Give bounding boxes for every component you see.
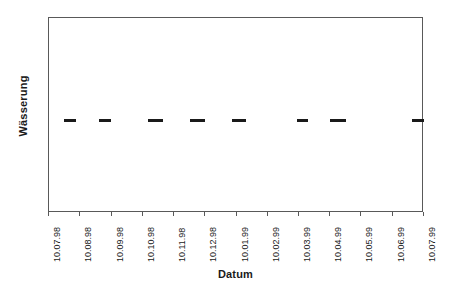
plot-area <box>48 17 423 212</box>
y-axis-title-text: Wässerung <box>17 75 29 136</box>
x-tick-label-text: 10.08.98 <box>83 227 93 262</box>
x-tick-label-text: 10.04.99 <box>333 227 343 262</box>
data-marker <box>297 119 309 122</box>
data-marker <box>232 119 246 122</box>
x-tick-label-text: 10.07.99 <box>427 227 437 262</box>
data-marker <box>412 119 424 122</box>
x-tick-label-text: 10.02.99 <box>271 227 281 262</box>
data-marker <box>148 119 163 122</box>
x-tick-label-text: 10.03.99 <box>302 227 312 262</box>
x-tick-label-text: 10.01.99 <box>240 227 250 262</box>
x-tick-label-text: 10.10.98 <box>146 227 156 262</box>
x-tick-label-text: 10.11.98 <box>177 228 187 262</box>
data-marker <box>99 119 111 122</box>
x-axis-title: Datum <box>48 268 423 280</box>
x-tick-label-text: 10.12.98 <box>208 227 218 262</box>
x-tick-label-text: 10.07.98 <box>52 227 62 262</box>
data-marker <box>190 119 205 122</box>
chart-figure: Wässerung 10.07.9810.08.9810.09.9810.10.… <box>0 0 449 294</box>
y-axis-title: Wässerung <box>9 0 37 212</box>
data-marker <box>330 119 347 122</box>
x-tick-label-text: 10.05.99 <box>364 227 374 262</box>
x-axis-tick-labels: 10.07.9810.08.9810.09.9810.10.9810.11.98… <box>48 216 423 264</box>
data-marker <box>64 119 76 122</box>
x-tick-label-text: 10.09.98 <box>115 227 125 262</box>
x-axis-tick <box>423 212 424 216</box>
x-tick-label-text: 10.06.99 <box>396 227 406 262</box>
